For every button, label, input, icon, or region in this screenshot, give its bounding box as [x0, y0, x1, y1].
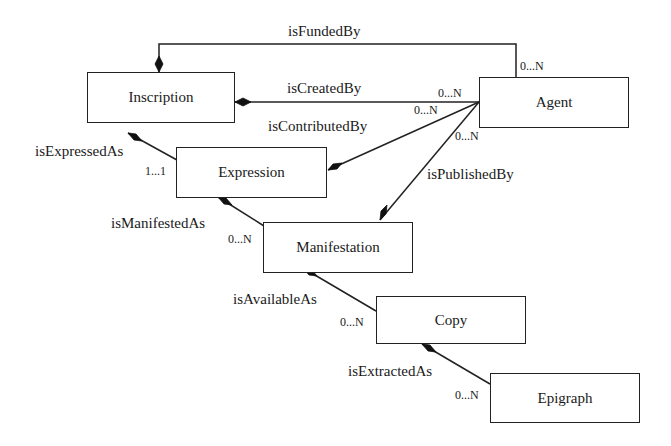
cardinality-isManifestedAs: 0...N — [228, 233, 252, 245]
cardinality-isFundedBy: 0...N — [520, 60, 544, 72]
entity-expression: Expression — [176, 147, 327, 198]
relation-label-isExtractedAs: isExtractedAs — [348, 364, 432, 379]
relation-label-isPublishedBy: isPublishedBy — [427, 167, 514, 182]
entity-label: Agent — [536, 94, 573, 111]
entity-agent: Agent — [479, 77, 629, 128]
entity-inscription: Inscription — [87, 72, 235, 123]
entity-relationship-diagram: Inscription Agent Expression Manifestati… — [0, 0, 671, 446]
diamond-isCreatedBy — [235, 98, 251, 106]
diamond-isContributedBy — [328, 163, 342, 170]
relation-label-isManifestedAs: isManifestedAs — [111, 216, 205, 231]
cardinality-isExpressedAs: 1...1 — [145, 165, 166, 177]
entity-epigraph: Epigraph — [490, 373, 640, 423]
cardinality-isExtractedAs: 0...N — [455, 389, 479, 401]
diamond-isExtractedAs — [422, 344, 436, 352]
cardinality-isContributedBy: 0...N — [414, 104, 438, 116]
diamond-isPublishedBy — [380, 205, 387, 220]
entity-label: Epigraph — [538, 390, 593, 407]
diamond-isFundedBy — [155, 56, 163, 72]
entity-manifestation: Manifestation — [263, 222, 413, 273]
connector-isPublishedBy — [380, 102, 479, 220]
relation-label-isCreatedBy: isCreatedBy — [287, 81, 361, 96]
entity-copy: Copy — [376, 296, 526, 344]
cardinality-isPublishedBy: 0...N — [455, 130, 479, 142]
relation-label-isExpressedAs: isExpressedAs — [35, 144, 123, 159]
relation-label-isAvailableAs: isAvailableAs — [233, 292, 317, 307]
entity-label: Manifestation — [296, 239, 379, 256]
entity-label: Inscription — [129, 89, 194, 106]
entity-label: Copy — [435, 312, 468, 329]
cardinality-isCreatedBy: 0...N — [438, 87, 462, 99]
relation-label-isContributedBy: isContributedBy — [268, 119, 367, 134]
cardinality-isAvailableAs: 0...N — [340, 316, 364, 328]
entity-label: Expression — [218, 164, 285, 181]
diamond-isManifestedAs — [218, 197, 232, 205]
diamond-isExpressedAs — [128, 133, 142, 141]
relation-label-isFundedBy: isFundedBy — [288, 24, 361, 39]
